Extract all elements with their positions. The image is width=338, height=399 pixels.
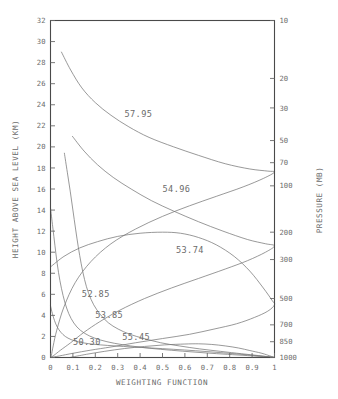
y-tick-label-right-850: 850 — [280, 337, 293, 346]
curve-label-55.45: 55.45 — [122, 332, 150, 342]
y-tick-label-left-22: 22 — [37, 121, 46, 130]
x-tick-label-0.8: 0.8 — [223, 363, 236, 372]
y-tick-label-right-10: 10 — [280, 16, 289, 25]
curve-labels-layer: 57.9554.9653.7452.8553.8555.4550.30 — [73, 109, 204, 347]
y-tick-label-left-24: 24 — [37, 100, 46, 109]
weighting-function-chart: 02468101214161820222426283032 1020305070… — [0, 0, 338, 399]
y-axis-right-title: PRESSURE (MB) — [315, 167, 324, 234]
curves-layer — [51, 52, 275, 357]
y-tick-label-left-32: 32 — [37, 16, 46, 25]
y-tick-label-left-18: 18 — [37, 164, 46, 173]
y-tick-label-right-100: 100 — [280, 181, 293, 190]
x-tick-label-0.6: 0.6 — [178, 363, 191, 372]
curve-label-54.96: 54.96 — [163, 184, 191, 194]
x-axis-ticks: 00.10.20.30.40.50.60.70.80.91 — [48, 353, 276, 372]
x-tick-label-0.7: 0.7 — [201, 363, 214, 372]
y-axis-left-title: HEIGHT ABOVE SEA LEVEL (KM) — [11, 120, 20, 258]
y-tick-label-left-20: 20 — [37, 142, 46, 151]
y-tick-label-left-12: 12 — [37, 227, 46, 236]
y-tick-label-right-50: 50 — [280, 136, 289, 145]
x-tick-label-0: 0 — [48, 363, 52, 372]
curve-label-53.74: 53.74 — [176, 245, 204, 255]
curve-label-57.95: 57.95 — [124, 109, 152, 119]
x-tick-label-0.2: 0.2 — [89, 363, 102, 372]
y-tick-label-left-28: 28 — [37, 58, 46, 67]
chart-canvas: 02468101214161820222426283032 1020305070… — [0, 0, 338, 399]
y-tick-label-right-70: 70 — [280, 158, 289, 167]
x-tick-label-0.1: 0.1 — [66, 363, 79, 372]
weighting-curve-57.95 — [51, 52, 275, 357]
x-tick-label-0.4: 0.4 — [134, 363, 147, 372]
y-tick-label-left-2: 2 — [41, 332, 45, 341]
y-tick-label-right-500: 500 — [280, 294, 293, 303]
weighting-curve-53.85 — [51, 208, 275, 358]
y-tick-label-right-1000: 1000 — [280, 353, 297, 362]
y-tick-label-left-0: 0 — [41, 353, 45, 362]
y-tick-label-right-200: 200 — [280, 228, 293, 237]
x-tick-label-1: 1 — [272, 363, 276, 372]
y-tick-label-left-30: 30 — [37, 37, 46, 46]
y-tick-label-right-700: 700 — [280, 320, 293, 329]
curve-label-53.85: 53.85 — [95, 310, 123, 320]
y-tick-label-right-20: 20 — [280, 74, 289, 83]
y-tick-label-left-14: 14 — [37, 206, 46, 215]
x-axis-title: WEIGHTING FUNCTION — [116, 378, 208, 387]
x-tick-label-0.5: 0.5 — [156, 363, 169, 372]
y-tick-label-left-10: 10 — [37, 248, 46, 257]
y-tick-label-right-300: 300 — [280, 255, 293, 264]
curve-label-50.30: 50.30 — [73, 337, 101, 347]
y-tick-label-left-16: 16 — [37, 185, 46, 194]
x-tick-label-0.3: 0.3 — [111, 363, 124, 372]
curve-label-52.85: 52.85 — [82, 289, 110, 299]
weighting-curve-54.96 — [51, 136, 275, 357]
y-tick-label-right-30: 30 — [280, 104, 289, 113]
x-tick-label-0.9: 0.9 — [246, 363, 259, 372]
y-tick-label-left-26: 26 — [37, 79, 46, 88]
y-tick-label-left-8: 8 — [41, 269, 45, 278]
y-tick-label-left-6: 6 — [41, 290, 45, 299]
y-tick-label-left-4: 4 — [41, 311, 45, 320]
y-axis-left-ticks: 02468101214161820222426283032 — [37, 16, 55, 362]
